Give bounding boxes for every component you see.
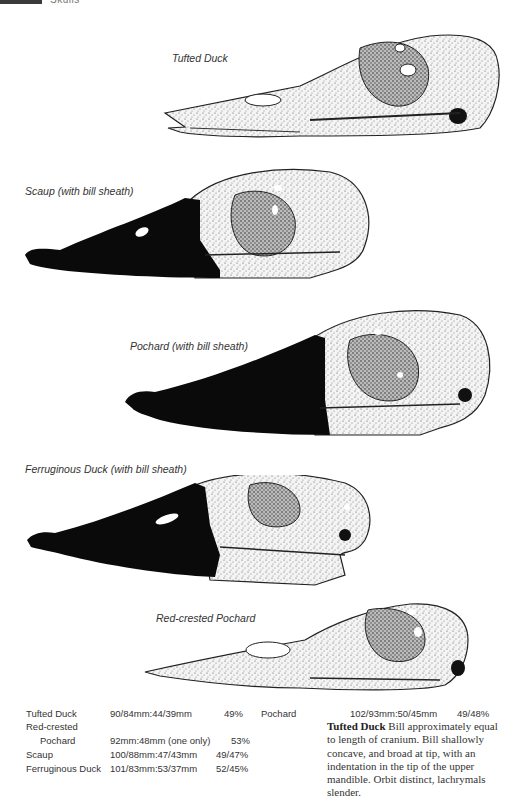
species-name: Ferruginous Duck bbox=[26, 763, 101, 774]
section-header: Skulls bbox=[50, 0, 80, 5]
species-name: Scaup bbox=[26, 749, 53, 760]
red-crested-pochard-skull-illustration bbox=[140, 600, 485, 695]
measurement-percent: 52/45% bbox=[216, 763, 248, 774]
species-name: Pochard bbox=[261, 708, 296, 719]
table-row: Red-crested bbox=[0, 721, 250, 734]
measurement-value: 100/88mm:47/43mm bbox=[110, 749, 197, 760]
measurement-percent: 53% bbox=[231, 735, 250, 746]
section-tab-marker bbox=[0, 0, 42, 4]
measurement-percent: 49/48% bbox=[457, 708, 489, 719]
table-row: Scaup 100/88mm:47/43mm 49/47% bbox=[0, 749, 250, 762]
species-description: Tufted Duck Bill approximately equal to … bbox=[327, 720, 502, 800]
measurement-value: 102/93mm:50/45mm bbox=[350, 708, 437, 719]
pochard-skull-illustration bbox=[120, 300, 505, 445]
measurement-percent: 49/47% bbox=[216, 749, 248, 760]
description-title: Tufted Duck bbox=[327, 720, 386, 732]
measurement-value: 92mm:48mm (one only) bbox=[110, 735, 210, 746]
figure-label-ferruginous-duck: Ferruginous Duck (with bill sheath) bbox=[25, 463, 187, 475]
table-row: Pochard 92mm:48mm (one only) 53% bbox=[0, 735, 250, 748]
scaup-skull-illustration bbox=[20, 160, 380, 285]
species-name-continued: Pochard bbox=[40, 735, 75, 746]
table-row: Tufted Duck 90/84mm:44/39mm 49% bbox=[0, 708, 250, 721]
ferruginous-duck-skull-illustration bbox=[25, 475, 375, 595]
tufted-duck-skull-illustration bbox=[160, 28, 505, 148]
measurement-value: 90/84mm:44/39mm bbox=[110, 708, 192, 719]
table-row: Ferruginous Duck 101/83mm:53/37mm 52/45% bbox=[0, 763, 250, 776]
measurement-percent: 49% bbox=[224, 708, 243, 719]
measurement-value: 101/83mm:53/37mm bbox=[110, 763, 197, 774]
species-name: Red-crested bbox=[26, 721, 78, 732]
species-name: Tufted Duck bbox=[26, 708, 77, 719]
